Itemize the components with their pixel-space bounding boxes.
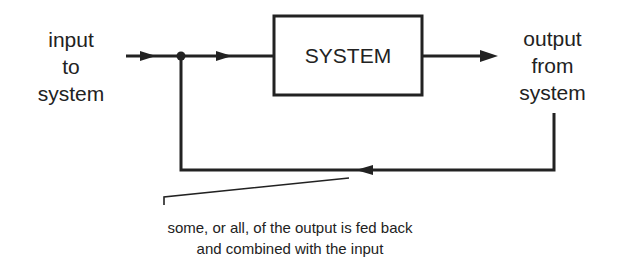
annotation-line: some, or all, of the output is fed back (120, 217, 460, 238)
output-label-line: system (500, 79, 605, 106)
input-label-line: system (20, 80, 122, 107)
system-label: SYSTEM (274, 16, 422, 95)
input-arrow-icon (140, 51, 156, 61)
input-label-line: input (20, 26, 122, 53)
junction-arrow-icon (216, 51, 232, 61)
feedback-annotation: some, or all, of the output is fed back … (120, 217, 460, 259)
output-arrow-icon (480, 50, 498, 62)
input-label-line: to (20, 53, 122, 80)
junction-dot (177, 52, 186, 61)
input-label: input to system (20, 26, 122, 107)
feedback-arrow-icon (356, 165, 373, 175)
output-label: output from system (500, 25, 605, 106)
output-label-line: from (500, 52, 605, 79)
output-label-line: output (500, 25, 605, 52)
annotation-line: and combined with the input (120, 238, 460, 259)
annotation-leader (164, 178, 349, 205)
